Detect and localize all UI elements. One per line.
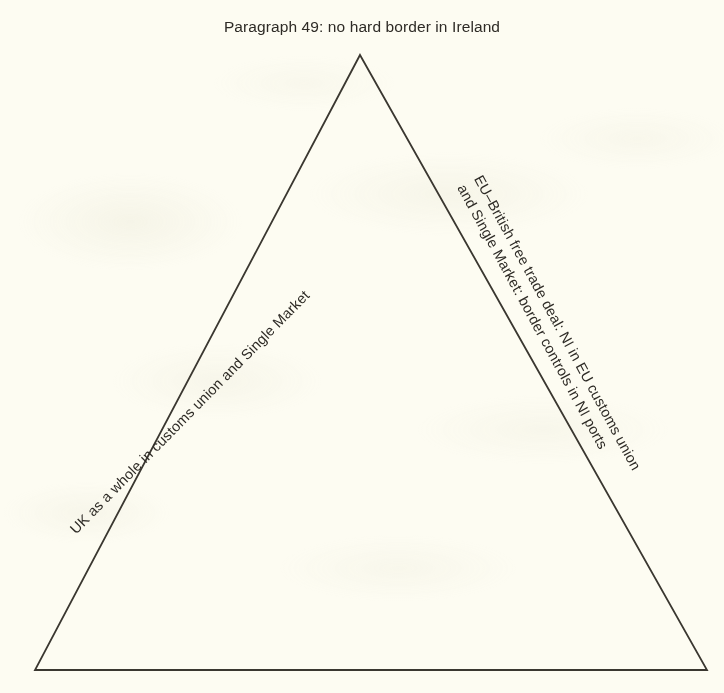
triangle-shape: [0, 0, 724, 693]
triangle-outline: [35, 55, 707, 670]
diagram-canvas: Paragraph 49: no hard border in Ireland …: [0, 0, 724, 693]
page-title: Paragraph 49: no hard border in Ireland: [0, 18, 724, 36]
